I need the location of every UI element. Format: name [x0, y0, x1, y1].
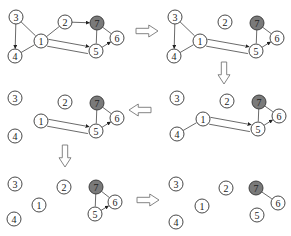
- node-label: 7: [95, 18, 100, 29]
- node-7: 7: [90, 96, 104, 110]
- arrow-down-1-icon: [218, 62, 230, 84]
- node-5: 5: [89, 124, 103, 138]
- node-3: 3: [170, 91, 184, 105]
- node-7: 7: [249, 181, 263, 195]
- node-label: 2: [225, 96, 230, 107]
- arrow-left-1-icon: [129, 104, 151, 116]
- panel-2: 3412756: [167, 10, 284, 63]
- node-5: 5: [88, 207, 102, 221]
- node-1: 1: [196, 112, 210, 126]
- node-label: 6: [115, 33, 120, 44]
- edge-7-6: [265, 106, 273, 112]
- node-6: 6: [270, 31, 284, 45]
- node-2: 2: [220, 94, 234, 108]
- node-1: 1: [195, 199, 209, 213]
- edge-1-5: [207, 39, 249, 46]
- node-label: 4: [174, 217, 179, 228]
- node-label: 7: [257, 97, 262, 108]
- panel-4: 3412756: [170, 91, 286, 141]
- node-label: 2: [223, 17, 228, 28]
- edge-7-6: [101, 191, 109, 197]
- diagram-canvas: 3412756341275634127563412756341275634127…: [0, 0, 291, 236]
- graph-reduction-figure: 3412756341275634127563412756341275634127…: [0, 0, 291, 236]
- edge-1-5: [209, 124, 250, 131]
- edge-7-6: [103, 27, 111, 33]
- node-7: 7: [250, 16, 264, 30]
- node-6: 6: [272, 109, 286, 123]
- edge-4-1: [183, 123, 196, 131]
- node-5: 5: [89, 44, 103, 58]
- node-label: 4: [12, 214, 17, 225]
- node-3: 3: [8, 91, 22, 105]
- panel-5: 3412756: [7, 177, 122, 226]
- edge-5-6: [101, 206, 109, 211]
- node-2: 2: [58, 15, 72, 29]
- node-label: 3: [13, 179, 18, 190]
- edge-1-5: [47, 126, 88, 133]
- node-label: 1: [39, 36, 44, 47]
- node-7: 7: [89, 180, 103, 194]
- node-6: 6: [110, 31, 124, 45]
- node-label: 4: [13, 131, 18, 142]
- node-label: 7: [255, 18, 260, 29]
- node-label: 1: [200, 201, 205, 212]
- node-label: 5: [94, 46, 99, 57]
- node-label: 4: [172, 51, 177, 62]
- node-1: 1: [32, 198, 46, 212]
- node-2: 2: [58, 95, 72, 109]
- node-label: 5: [254, 46, 259, 57]
- edge-1-5: [48, 39, 89, 46]
- edge-7-6: [103, 107, 111, 113]
- edge-1-2: [46, 27, 59, 37]
- node-5: 5: [249, 44, 263, 58]
- node-label: 6: [276, 198, 281, 209]
- node-label: 4: [175, 129, 180, 140]
- node-label: 1: [198, 36, 203, 47]
- node-4: 4: [8, 129, 22, 143]
- node-label: 2: [63, 17, 68, 28]
- node-label: 3: [173, 12, 178, 23]
- node-label: 3: [14, 12, 19, 23]
- edge-1-5: [47, 46, 88, 53]
- node-label: 6: [275, 33, 280, 44]
- node-label: 2: [224, 183, 229, 194]
- node-6: 6: [271, 196, 285, 210]
- node-7: 7: [252, 95, 266, 109]
- node-4: 4: [7, 212, 21, 226]
- node-1: 1: [34, 114, 48, 128]
- node-4: 4: [170, 127, 184, 141]
- node-4: 4: [169, 215, 183, 229]
- edge-2-7: [72, 22, 90, 23]
- node-3: 3: [9, 10, 23, 24]
- node-label: 5: [93, 209, 98, 220]
- edge-3-1: [21, 22, 36, 36]
- edge-3-1: [180, 22, 195, 36]
- node-label: 3: [174, 179, 179, 190]
- edge-4-1: [180, 45, 193, 53]
- node-label: 2: [63, 97, 68, 108]
- node-1: 1: [34, 34, 48, 48]
- node-label: 1: [201, 114, 206, 125]
- node-label: 5: [94, 126, 99, 137]
- node-label: 7: [254, 183, 259, 194]
- edge-1-5: [48, 119, 89, 126]
- edge-5-6: [102, 42, 111, 47]
- edge-7-6: [262, 192, 272, 199]
- node-label: 2: [62, 182, 67, 193]
- edge-5-6: [264, 120, 273, 125]
- node-label: 1: [39, 116, 44, 127]
- node-1: 1: [193, 34, 207, 48]
- node-3: 3: [8, 177, 22, 191]
- edges: [262, 192, 272, 199]
- node-label: 6: [115, 113, 120, 124]
- edge-5-6: [102, 122, 111, 127]
- node-label: 7: [94, 182, 99, 193]
- node-label: 7: [95, 98, 100, 109]
- node-2: 2: [218, 15, 232, 29]
- arrow-right-2-icon: [137, 194, 159, 206]
- node-label: 1: [37, 200, 42, 211]
- edge-3-4: [174, 24, 175, 49]
- node-7: 7: [90, 16, 104, 30]
- panel-1: 3412756: [8, 10, 124, 63]
- node-6: 6: [108, 195, 122, 209]
